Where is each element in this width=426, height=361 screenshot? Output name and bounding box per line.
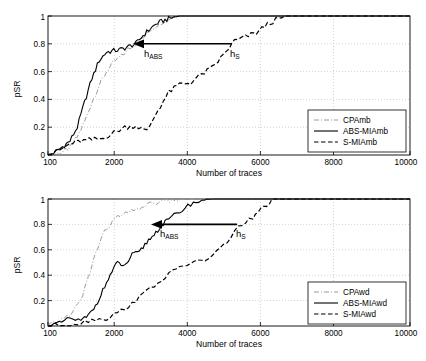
y-tick-label: 1 [40, 196, 45, 205]
y-tick-label: 0.4 [34, 95, 46, 104]
x-tick-label: 6000 [251, 329, 270, 338]
chart-awd-svg: 0 0.2 0.4 0.6 0.8 1 pSR 100 2000 4000 60… [0, 180, 426, 361]
x-tick-label: 8000 [324, 158, 343, 167]
chart-awd-figure: 0 0.2 0.4 0.6 0.8 1 pSR 100 2000 4000 60… [0, 180, 426, 361]
legend-label-s-miamb: S-MIAmb [343, 138, 378, 147]
y-tick-label: 1 [40, 13, 45, 22]
y-tick-label: 0.6 [34, 246, 46, 255]
y-tick-label: 0.2 [34, 297, 46, 306]
legend-label-s-miawd: S-MIAwd [343, 310, 377, 319]
chart-amb-svg: 0 0.2 0.4 0.6 0.8 1 pSR 100 2000 4000 60… [0, 0, 426, 180]
x-tick-label: 100 [43, 329, 57, 338]
background-artifacts [0, 0, 426, 180]
y-tick-label: 0.8 [34, 40, 46, 49]
x-tick-label: 10000 [395, 329, 418, 338]
y-tick-label: 0.4 [34, 271, 46, 280]
y-tick-label: 0.8 [34, 220, 46, 229]
legend-amb[interactable]: CPAmb ABS-MIAmb S-MIAmb [308, 110, 406, 152]
y-axis-title: pSR [12, 257, 22, 274]
y-tick-label: 0.2 [34, 123, 46, 132]
x-axis-title: Number of traces [196, 339, 262, 349]
x-tick-label: 4000 [178, 158, 197, 167]
legend-label-abs-miamb: ABS-MIAmb [343, 127, 388, 136]
y-tick-label: 0.6 [34, 68, 46, 77]
chart-amb-figure: 0 0.2 0.4 0.6 0.8 1 pSR 100 2000 4000 60… [0, 0, 426, 180]
x-tick-label: 4000 [178, 329, 197, 338]
x-tick-label: 6000 [251, 158, 270, 167]
legend-label-abs-miawd: ABS-MIAwd [343, 299, 387, 308]
x-tick-label: 2000 [105, 329, 124, 338]
x-axis-title: Number of traces [196, 168, 262, 178]
legend-label-cpamb: CPAmb [343, 116, 371, 125]
x-tick-label: 8000 [324, 329, 343, 338]
legend-awd[interactable]: CPAwd ABS-MIAwd S-MIAwd [308, 282, 406, 324]
y-axis-title: pSR [12, 81, 22, 98]
x-tick-label: 2000 [105, 158, 124, 167]
x-tick-label: 100 [43, 158, 57, 167]
background-artifacts-2 [0, 180, 426, 361]
legend-label-cpawd: CPAwd [343, 288, 370, 297]
x-tick-label: 10000 [395, 158, 418, 167]
